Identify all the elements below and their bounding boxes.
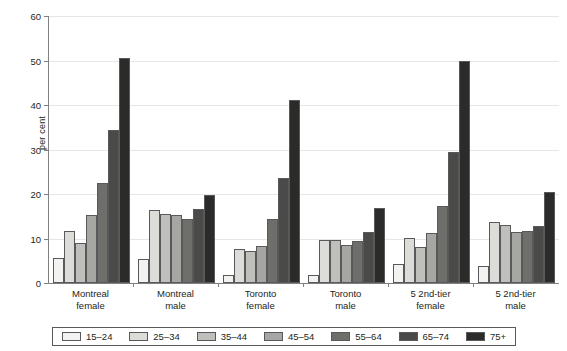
bar xyxy=(511,232,522,283)
bar xyxy=(53,258,64,283)
bar-group xyxy=(304,16,389,283)
bar-set xyxy=(223,16,300,283)
bar xyxy=(193,209,204,283)
legend-item: 25–34 xyxy=(129,331,179,342)
y-axis-tick xyxy=(44,283,49,284)
bar xyxy=(245,251,256,283)
bar xyxy=(437,206,448,283)
x-axis-label-line: Montreal xyxy=(133,288,218,300)
bar xyxy=(278,178,289,283)
bar xyxy=(363,232,374,283)
legend-label: 65–74 xyxy=(423,331,449,342)
legend-swatch xyxy=(197,332,216,341)
y-axis-tick-label: 10 xyxy=(30,233,41,244)
legend-swatch xyxy=(399,332,418,341)
y-axis-tick-label: 20 xyxy=(30,189,41,200)
legend-swatch xyxy=(331,332,350,341)
legend-item: 55–64 xyxy=(331,331,381,342)
x-axis-label-line: female xyxy=(218,300,303,312)
bar xyxy=(352,241,363,283)
x-axis-label: 5 2nd-tierfemale xyxy=(388,288,473,312)
bar-group xyxy=(49,16,134,283)
x-axis-label-line: 5 2nd-tier xyxy=(473,288,558,300)
bar xyxy=(138,259,149,283)
bar xyxy=(97,183,108,283)
x-axis-label: Torontofemale xyxy=(218,288,303,312)
x-axis-label-line: male xyxy=(133,300,218,312)
legend-label: 35–44 xyxy=(221,331,247,342)
bar xyxy=(426,233,437,283)
x-axis-label-line: 5 2nd-tier xyxy=(388,288,473,300)
bar xyxy=(289,100,300,283)
bar-set xyxy=(393,16,470,283)
bar xyxy=(149,210,160,283)
bar xyxy=(393,264,404,283)
bar xyxy=(374,208,385,283)
bar xyxy=(234,249,245,283)
bar xyxy=(204,195,215,283)
legend-label: 15–24 xyxy=(86,331,112,342)
x-axis-label: Montrealmale xyxy=(133,288,218,312)
legend-swatch xyxy=(264,332,283,341)
y-axis-tick-label: 60 xyxy=(30,11,41,22)
bar xyxy=(75,243,86,283)
legend-item: 65–74 xyxy=(399,331,449,342)
y-axis-tick-label: 40 xyxy=(30,100,41,111)
y-axis-tick-label: 0 xyxy=(36,278,41,289)
legend-label: 45–54 xyxy=(288,331,314,342)
bar xyxy=(256,246,267,283)
bar xyxy=(64,231,75,284)
x-axis-label-line: male xyxy=(473,300,558,312)
x-axis-label-line: Montreal xyxy=(48,288,133,300)
x-axis-labels: MontrealfemaleMontrealmaleTorontofemaleT… xyxy=(48,288,558,312)
bar-chart: per cent 0102030405060 MontrealfemaleMon… xyxy=(0,0,567,351)
legend-item: 15–24 xyxy=(62,331,112,342)
bar-set xyxy=(478,16,555,283)
bar xyxy=(522,231,533,283)
legend-swatch xyxy=(466,332,485,341)
bar xyxy=(171,215,182,283)
bar-group xyxy=(134,16,219,283)
legend-swatch xyxy=(129,332,148,341)
plot-area: 0102030405060 xyxy=(48,16,559,284)
x-axis-label: 5 2nd-tiermale xyxy=(473,288,558,312)
bar xyxy=(415,247,426,283)
legend-item: 75+ xyxy=(466,331,506,342)
bar-group xyxy=(389,16,474,283)
x-axis-tick xyxy=(303,283,304,287)
bar xyxy=(341,245,352,283)
x-axis-tick xyxy=(473,283,474,287)
legend-label: 75+ xyxy=(490,331,506,342)
bar-set xyxy=(308,16,385,283)
bar-group xyxy=(219,16,304,283)
bar xyxy=(330,240,341,283)
x-axis-label: Torontomale xyxy=(303,288,388,312)
y-axis-tick-label: 30 xyxy=(30,144,41,155)
bar xyxy=(308,275,319,283)
bar xyxy=(86,215,97,283)
x-axis-label-line: Toronto xyxy=(303,288,388,300)
bar xyxy=(459,61,470,283)
x-axis-label: Montrealfemale xyxy=(48,288,133,312)
bar-set xyxy=(53,16,130,283)
bar xyxy=(267,219,278,283)
x-axis-label-line: Toronto xyxy=(218,288,303,300)
x-axis-tick xyxy=(218,283,219,287)
y-axis-tick-label: 50 xyxy=(30,55,41,66)
bar xyxy=(108,130,119,283)
bar xyxy=(404,238,415,283)
legend-swatch xyxy=(62,332,81,341)
bar xyxy=(182,219,193,283)
bar xyxy=(489,222,500,283)
x-axis-tick xyxy=(133,283,134,287)
bar xyxy=(319,240,330,283)
bar-set xyxy=(138,16,215,283)
x-axis-label-line: male xyxy=(303,300,388,312)
bar-groups xyxy=(49,16,559,283)
bar xyxy=(160,214,171,283)
bar xyxy=(478,266,489,283)
bar xyxy=(119,58,130,283)
bar xyxy=(533,226,544,283)
legend-item: 35–44 xyxy=(197,331,247,342)
legend-label: 55–64 xyxy=(355,331,381,342)
